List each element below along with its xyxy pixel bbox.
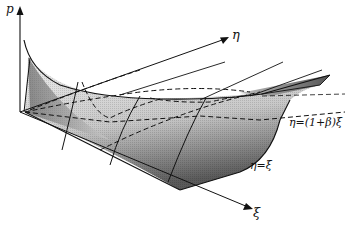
lower-boundary-label: η=ξ bbox=[250, 160, 272, 171]
p-axis-label: p bbox=[6, 3, 14, 15]
upper-boundary-label: η=(1+β)ξ bbox=[289, 117, 342, 128]
p-axis bbox=[17, 6, 24, 112]
eta-axis-label: η bbox=[232, 28, 240, 41]
surface bbox=[24, 40, 345, 190]
xi-axis-label: ξ bbox=[253, 206, 260, 219]
